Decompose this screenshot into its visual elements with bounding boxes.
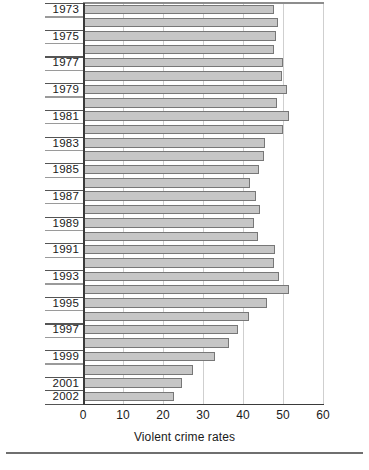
footer-divider [6, 452, 363, 454]
bar-1992 [83, 258, 274, 268]
bar-row [83, 137, 323, 150]
bar-1979 [83, 85, 287, 95]
bar-row [83, 56, 323, 69]
y-axis-label-1993: 1993 [53, 270, 83, 283]
bar-1988 [83, 205, 260, 215]
y-axis-label-1985: 1985 [53, 163, 83, 176]
y-axis-tick [45, 363, 83, 364]
bar-row [83, 257, 323, 270]
bar-row [83, 350, 323, 363]
x-axis-tick-label-30: 30 [188, 408, 218, 422]
bar-1986 [83, 178, 250, 188]
bar-1990 [83, 232, 258, 242]
x-axis-tick-label-40: 40 [228, 408, 258, 422]
plot-area [83, 3, 323, 404]
violent-crime-rates-bar-chart: 0102030405060 Violent crime rates 197319… [0, 0, 369, 470]
y-axis-label-1979: 1979 [53, 83, 83, 96]
y-axis-label-1973: 1973 [53, 3, 83, 16]
bar-1987 [83, 191, 256, 201]
bar-row [83, 16, 323, 29]
x-axis-tick-label-10: 10 [108, 408, 138, 422]
bar-2000 [83, 365, 193, 375]
y-axis-label-1975: 1975 [53, 30, 83, 43]
bar-row [83, 190, 323, 203]
bar-1993 [83, 272, 279, 282]
bar-row [83, 283, 323, 296]
gridline-60 [323, 3, 324, 404]
bar-row [83, 323, 323, 336]
bar-2001 [83, 378, 182, 388]
y-axis-tick [45, 96, 83, 97]
bar-1985 [83, 165, 259, 175]
y-axis-label-2002: 2002 [53, 390, 83, 403]
y-axis-label-1989: 1989 [53, 217, 83, 230]
y-axis-label-1991: 1991 [53, 243, 83, 256]
bar-1980 [83, 98, 277, 108]
y-axis-label-1995: 1995 [53, 297, 83, 310]
x-axis-title: Violent crime rates [0, 430, 369, 444]
bar-1976 [83, 45, 274, 55]
y-axis-label-1981: 1981 [53, 110, 83, 123]
y-axis-label-1977: 1977 [53, 56, 83, 69]
y-axis-tick [45, 16, 83, 17]
y-axis-tick [45, 123, 83, 124]
bar-row [83, 30, 323, 43]
bar-row [83, 337, 323, 350]
bar-row [83, 270, 323, 283]
bar-1989 [83, 218, 254, 228]
y-axis-tick [45, 203, 83, 204]
bar-1977 [83, 58, 283, 68]
bar-row [83, 217, 323, 230]
bar-row [83, 43, 323, 56]
y-axis-tick [45, 404, 83, 405]
bar-1984 [83, 151, 264, 161]
y-axis-label-1999: 1999 [53, 350, 83, 363]
bar-1991 [83, 245, 275, 255]
bar-1975 [83, 31, 276, 41]
bar-row [83, 310, 323, 323]
y-axis-tick [45, 177, 83, 178]
x-axis-tick-label-0: 0 [68, 408, 98, 422]
bar-1983 [83, 138, 265, 148]
y-axis-tick [45, 43, 83, 44]
x-axis-tick-label-50: 50 [268, 408, 298, 422]
bar-row [83, 70, 323, 83]
bar-row [83, 243, 323, 256]
bar-row [83, 390, 323, 403]
bar-1995 [83, 298, 267, 308]
bar-row [83, 150, 323, 163]
bar-row [83, 203, 323, 216]
bar-1999 [83, 352, 215, 362]
bar-1981 [83, 111, 289, 121]
bar-row [83, 163, 323, 176]
y-axis-label-1997: 1997 [53, 323, 83, 336]
bar-1978 [83, 71, 282, 81]
bar-1996 [83, 312, 249, 322]
bar-row [83, 83, 323, 96]
y-axis-tick [45, 70, 83, 71]
plot-top-border [83, 2, 324, 4]
y-axis-tick [45, 230, 83, 231]
y-axis-line [83, 3, 85, 404]
bar-1974 [83, 18, 278, 28]
y-axis-tick [45, 257, 83, 258]
bar-1994 [83, 285, 289, 295]
bar-1998 [83, 338, 229, 348]
y-axis-tick [45, 337, 83, 338]
y-axis-label-1987: 1987 [53, 190, 83, 203]
bar-row [83, 96, 323, 109]
bar-1997 [83, 325, 238, 335]
y-axis-label-1983: 1983 [53, 137, 83, 150]
bar-row [83, 177, 323, 190]
x-axis-tick-label-20: 20 [148, 408, 178, 422]
x-axis-line [83, 404, 324, 406]
bar-row [83, 377, 323, 390]
bar-row [83, 230, 323, 243]
y-axis-tick [45, 310, 83, 311]
bar-2002 [83, 392, 174, 402]
bar-1982 [83, 125, 283, 135]
bar-row [83, 297, 323, 310]
bar-row [83, 363, 323, 376]
y-axis-tick [45, 283, 83, 284]
bar-row [83, 110, 323, 123]
